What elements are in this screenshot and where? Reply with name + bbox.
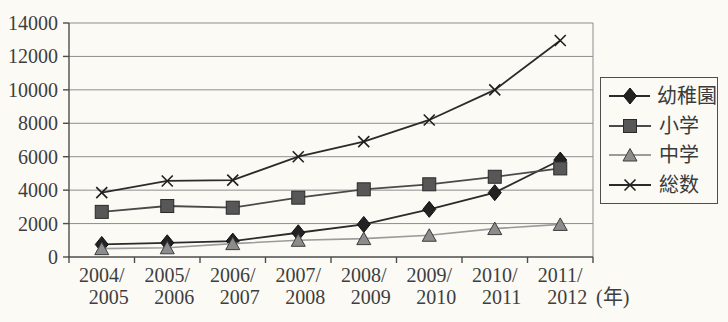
x-tick-label-bottom: 2005 — [89, 286, 129, 308]
y-tick-label: 8000 — [18, 112, 58, 134]
legend-item-total: 総数 — [608, 171, 717, 199]
square-marker-icon — [95, 205, 108, 218]
legend-label-elementary-school: 小学 — [659, 116, 699, 136]
x-tick-label-top: 2007/ — [275, 264, 321, 286]
legend-label-total: 総数 — [659, 175, 699, 195]
square-marker-icon — [624, 119, 637, 132]
y-tick-label: 12000 — [8, 45, 58, 67]
axes — [68, 23, 593, 257]
y-tick-label: 6000 — [18, 146, 58, 168]
scanned-line-chart-page: 020004000600080001000012000140002004/200… — [0, 0, 728, 322]
chart-legend: 幼稚園小学中学総数 — [600, 77, 718, 204]
legend-label-junior-high-school: 中学 — [659, 145, 699, 165]
legend-item-junior-high-school: 中学 — [608, 141, 717, 169]
x-tick-label-top: 2008/ — [341, 264, 387, 286]
x-tick-label-bottom: 2012 — [547, 286, 587, 308]
diamond-marker-icon — [357, 216, 370, 232]
y-axis: 02000400060008000100001200014000 — [8, 12, 69, 268]
x-tick-label-bottom: 2006 — [154, 286, 194, 308]
diamond-marker-icon — [608, 87, 650, 105]
square-marker-icon — [292, 191, 305, 204]
x-tick-label-top: 2006/ — [210, 264, 256, 286]
triangle-marker-icon — [608, 146, 652, 164]
x-marker-icon — [424, 114, 435, 125]
x-tick-label-top: 2005/ — [144, 264, 190, 286]
x-tick-label-top: 2011/ — [538, 264, 583, 286]
x-tick-label-bottom: 2007 — [220, 286, 260, 308]
square-marker-icon — [608, 117, 652, 135]
y-tick-label: 14000 — [8, 12, 58, 34]
y-tick-label: 2000 — [18, 213, 58, 235]
x-tick-label-top: 2009/ — [406, 264, 452, 286]
x-tick-label-top: 2004/ — [79, 264, 125, 286]
y-tick-label: 0 — [48, 246, 58, 268]
y-tick-label: 4000 — [18, 179, 58, 201]
x-marker-icon — [555, 35, 566, 46]
x-tick-label-bottom: 2010 — [416, 286, 456, 308]
x-tick-label-bottom: 2008 — [285, 286, 325, 308]
legend-item-kindergarten: 幼稚園 — [608, 82, 717, 110]
x-tick-label-bottom: 2011 — [482, 286, 521, 308]
square-marker-icon — [357, 183, 370, 196]
legend-label-kindergarten: 幼稚園 — [657, 86, 717, 106]
x-tick-label-top: 2010/ — [472, 264, 518, 286]
y-tick-label: 10000 — [8, 79, 58, 101]
x-tick-label-bottom: 2009 — [351, 286, 391, 308]
diamond-marker-icon — [624, 88, 637, 104]
x-axis-unit-label: (年) — [596, 286, 629, 309]
square-marker-icon — [423, 178, 436, 191]
square-marker-icon — [554, 162, 567, 175]
square-marker-icon — [226, 201, 239, 214]
diamond-marker-icon — [488, 185, 501, 201]
x-marker-icon — [608, 176, 652, 194]
x-axis: 2004/20052005/20062006/20072007/20082008… — [69, 257, 629, 309]
diamond-marker-icon — [423, 201, 436, 217]
square-marker-icon — [161, 200, 174, 213]
legend-item-elementary-school: 小学 — [608, 112, 717, 140]
square-marker-icon — [488, 170, 501, 183]
